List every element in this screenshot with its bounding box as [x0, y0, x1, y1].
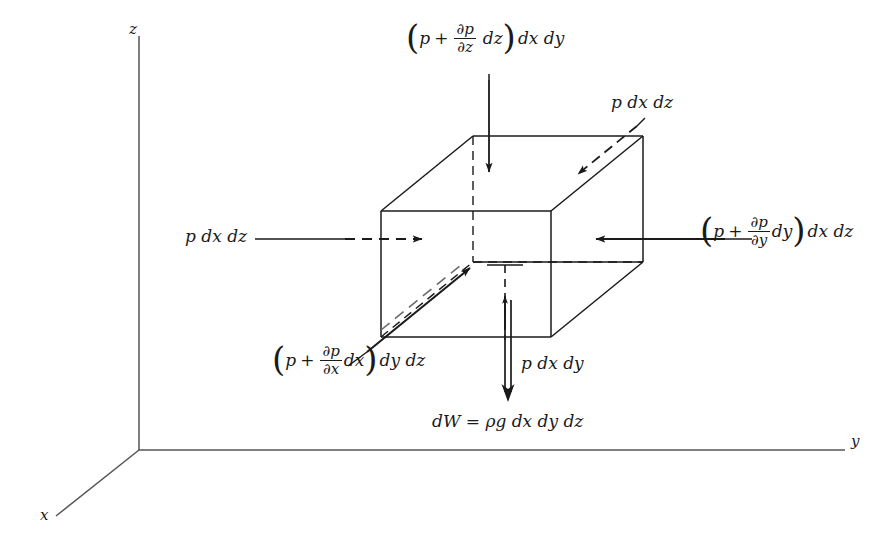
top-force-numerator: ∂p	[454, 22, 475, 39]
right-force-fraction: ∂p ∂y	[748, 215, 769, 248]
top-force-plus: +	[430, 30, 452, 47]
weight-arrow-head	[502, 384, 515, 402]
top-force-open-paren: (	[406, 25, 419, 49]
cube-depth-edges	[381, 136, 643, 337]
front-force-fraction: ∂p ∂x	[320, 344, 341, 377]
front-force-open-paren: (	[272, 347, 285, 371]
depth-edge-bottom-left-hidden	[381, 262, 473, 337]
right-force-differential: dy	[772, 223, 793, 240]
right-force-tail: dx dz	[806, 223, 854, 240]
top-force-denominator: ∂z	[455, 39, 475, 55]
front-force-close-paren: )	[364, 347, 377, 371]
axis-label-x: x	[40, 508, 48, 523]
right-force-label: ( p + ∂p ∂y dy ) dx dz	[700, 215, 853, 248]
top-force-label: ( p + ∂p ∂z dz ) dx dy	[406, 22, 564, 55]
back-force-label: p dx dz	[611, 94, 673, 111]
front-force-denominator: ∂x	[321, 361, 341, 377]
left-force-label: p dx dz	[185, 228, 247, 245]
right-force-plus: +	[724, 223, 746, 240]
front-force-dashed-guide	[381, 265, 461, 330]
right-force-denominator: ∂y	[749, 232, 769, 248]
depth-edge-bottom-right	[551, 262, 643, 337]
top-force-p: p	[419, 30, 430, 47]
cube-back-face	[473, 136, 643, 262]
front-force-tail: dy dz	[378, 352, 426, 369]
front-force-numerator: ∂p	[320, 344, 341, 361]
top-force-tail: dx dy	[516, 30, 564, 47]
weight-arrow	[502, 300, 515, 402]
axis-x-line	[56, 450, 139, 516]
weight-label: dW = ρg dx dy dz	[432, 413, 583, 430]
back-force-label-leader	[637, 118, 645, 126]
front-force-label: ( p + ∂p ∂x dx ) dy dz	[272, 344, 425, 377]
right-force-numerator: ∂p	[748, 215, 769, 232]
cube-front-face	[381, 211, 551, 337]
axis-label-y: y	[851, 434, 859, 449]
coordinate-axes	[56, 36, 845, 516]
top-force-close-paren: )	[503, 25, 516, 49]
right-force-close-paren: )	[792, 218, 805, 242]
cube-hidden-edges	[381, 136, 643, 337]
axis-label-z: z	[129, 22, 137, 37]
depth-edge-top-right	[551, 136, 643, 211]
front-force-plus: +	[296, 352, 318, 369]
pressure-element-diagram: z y x ( p + ∂p ∂z dz ) dx dy ( p + ∂p ∂y…	[0, 0, 888, 544]
front-force-arrow	[367, 268, 470, 352]
right-force-open-paren: (	[700, 218, 713, 242]
front-force-p: p	[285, 352, 296, 369]
bottom-force-label: p dx dy	[521, 355, 584, 372]
top-force-fraction: ∂p ∂z	[454, 22, 475, 55]
front-force-differential: dx	[344, 352, 364, 369]
depth-edge-top-left	[381, 136, 473, 211]
figure-vector-graphics	[0, 0, 888, 544]
back-force-arrow	[578, 126, 637, 174]
top-force-differential: dz	[483, 30, 503, 47]
right-force-p: p	[713, 223, 724, 240]
